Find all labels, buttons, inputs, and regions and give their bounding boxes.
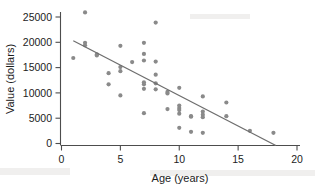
data-point: [154, 73, 158, 77]
x-axis-title: Age (years): [152, 172, 209, 184]
x-tick-label-15: 15: [232, 153, 244, 165]
x-tick-label-5: 5: [117, 153, 123, 165]
data-point: [118, 44, 122, 48]
data-point: [165, 107, 169, 111]
data-point: [107, 82, 111, 86]
data-point: [177, 112, 181, 116]
x-tick-label-20: 20: [291, 153, 303, 165]
data-point: [271, 131, 275, 135]
y-axis-title: Value (dollars): [4, 44, 16, 114]
data-point: [189, 130, 193, 134]
data-point: [201, 94, 205, 98]
data-point: [142, 82, 146, 86]
chart-svg: 0500010000150002000025000 05101520 Age (…: [0, 0, 315, 187]
x-tick-label-10: 10: [173, 153, 185, 165]
data-point: [189, 115, 193, 119]
y-tick-label-20000: 20000: [23, 36, 52, 48]
data-point: [201, 115, 205, 119]
data-point: [107, 71, 111, 75]
x-tick-label-0: 0: [59, 153, 65, 165]
data-point: [154, 87, 158, 91]
scatter-chart: 0500010000150002000025000 05101520 Age (…: [0, 0, 315, 187]
data-point: [177, 126, 181, 130]
data-point: [154, 59, 158, 63]
data-point: [201, 131, 205, 135]
data-point: [224, 114, 228, 118]
data-point: [130, 60, 134, 64]
data-point: [142, 52, 146, 56]
data-point: [177, 86, 181, 90]
data-point: [142, 41, 146, 45]
data-point: [142, 87, 146, 91]
y-tick-label-5000: 5000: [29, 112, 53, 124]
data-point: [154, 20, 158, 24]
data-point: [142, 111, 146, 115]
y-tick-label-25000: 25000: [23, 11, 52, 23]
y-tick-label-0: 0: [46, 137, 52, 149]
data-point: [142, 58, 146, 62]
data-point: [118, 69, 122, 73]
data-point: [224, 100, 228, 104]
data-point: [118, 93, 122, 97]
data-point: [83, 10, 87, 14]
data-point: [71, 56, 75, 60]
data-point: [165, 91, 169, 95]
y-tick-label-15000: 15000: [23, 61, 52, 73]
y-tick-label-10000: 10000: [23, 87, 52, 99]
